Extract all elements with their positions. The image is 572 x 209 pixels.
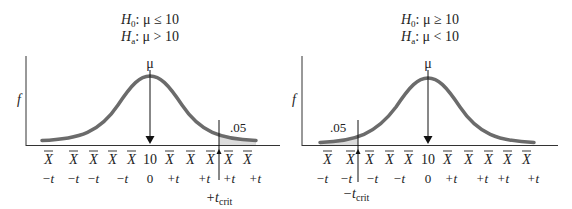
- alternative-hypothesis: Ha: μ < 10: [400, 29, 459, 46]
- critical-arrow-icon: [217, 149, 222, 154]
- svg-text:X: X: [185, 152, 195, 167]
- t-labels: −t −t −t −t 0 +t +t +t +t: [42, 171, 262, 186]
- t-labels: −t −t −t −t 0 +t +t +t +t: [316, 171, 540, 186]
- hypothesis-test-diagrams: H0: μ ≤ 10 Ha: μ > 10 f μ .05 X X X X: [0, 0, 572, 209]
- svg-text:−t: −t: [42, 171, 55, 186]
- svg-text:10: 10: [143, 152, 157, 167]
- svg-text:X: X: [126, 152, 136, 167]
- svg-text:X: X: [364, 152, 374, 167]
- mean-arrow-icon: [146, 136, 155, 144]
- null-hypothesis: H0: μ ≤ 10: [120, 12, 179, 29]
- svg-text:−t: −t: [67, 171, 80, 186]
- alternative-hypothesis: Ha: μ > 10: [120, 29, 179, 46]
- mu-label: μ: [146, 56, 154, 71]
- svg-text:+t: +t: [445, 171, 458, 186]
- svg-text:X: X: [205, 152, 215, 167]
- svg-text:+t: +t: [223, 171, 236, 186]
- svg-text:X: X: [345, 152, 355, 167]
- svg-text:X: X: [88, 152, 98, 167]
- svg-text:−t: −t: [393, 171, 406, 186]
- svg-text:X: X: [442, 152, 452, 167]
- svg-text:+t: +t: [198, 171, 211, 186]
- svg-text:X: X: [164, 152, 174, 167]
- svg-text:X: X: [242, 152, 252, 167]
- null-hypothesis: H0: μ ≥ 10: [400, 12, 459, 29]
- svg-text:0: 0: [147, 171, 154, 186]
- panel-right-tailed: H0: μ ≤ 10 Ha: μ > 10 f μ .05 X X X X: [17, 12, 280, 207]
- svg-text:+t: +t: [497, 171, 510, 186]
- alpha-label: .05: [330, 120, 346, 135]
- svg-text:−t: −t: [316, 171, 329, 186]
- alpha-label: .05: [230, 120, 246, 135]
- mean-arrow-icon: [424, 136, 433, 144]
- svg-text:X: X: [384, 152, 394, 167]
- mu-label: μ: [424, 56, 432, 71]
- y-axis-label: f: [292, 92, 298, 107]
- xbar-labels: X X X X X 10 X X X X X: [322, 151, 531, 167]
- critical-value-label: +tcrit: [206, 190, 233, 207]
- critical-arrow-icon: [356, 149, 361, 154]
- svg-text:X: X: [107, 152, 117, 167]
- svg-text:0: 0: [425, 171, 432, 186]
- svg-text:X: X: [403, 152, 413, 167]
- svg-text:−t: −t: [366, 171, 379, 186]
- svg-text:X: X: [463, 152, 473, 167]
- svg-text:X: X: [43, 152, 53, 167]
- normal-curve: [320, 78, 534, 143]
- svg-text:X: X: [502, 152, 512, 167]
- critical-value-label: −tcrit: [343, 186, 370, 203]
- svg-text:+t: +t: [476, 171, 489, 186]
- svg-text:X: X: [483, 152, 493, 167]
- svg-text:10: 10: [421, 152, 435, 167]
- svg-text:X: X: [68, 152, 78, 167]
- svg-text:−t: −t: [116, 171, 129, 186]
- panel-left-tailed: H0: μ ≥ 10 Ha: μ < 10 f μ .05 X X X X X …: [292, 12, 558, 203]
- svg-text:X: X: [322, 152, 332, 167]
- normal-curve: [42, 76, 256, 141]
- svg-text:+t: +t: [527, 171, 540, 186]
- svg-text:+t: +t: [249, 171, 262, 186]
- svg-text:−t: −t: [340, 171, 353, 186]
- svg-text:X: X: [223, 152, 233, 167]
- svg-text:+t: +t: [167, 171, 180, 186]
- svg-text:−t: −t: [87, 171, 100, 186]
- y-axis-label: f: [17, 92, 23, 107]
- svg-text:X: X: [521, 152, 531, 167]
